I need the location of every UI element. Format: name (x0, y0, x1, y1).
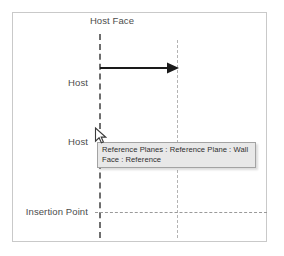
direction-arrow-svg (99, 60, 181, 76)
arrow-pointer-svg (93, 126, 107, 146)
arrow-pointer-icon (93, 126, 107, 146)
tooltip-text: Reference Planes : Reference Plane : Wal… (102, 145, 252, 164)
insertion-point-reference-line[interactable] (95, 212, 267, 213)
page-title: Host Face (72, 15, 152, 26)
label-host-lower: Host (24, 136, 88, 147)
host-face-diagram: Host Face Host Host Insertion Point Refe… (0, 0, 284, 256)
label-host-upper: Host (24, 77, 88, 88)
reference-plane-tooltip: Reference Planes : Reference Plane : Wal… (97, 142, 256, 168)
label-insertion-point: Insertion Point (14, 206, 88, 217)
direction-arrow-icon (99, 60, 181, 76)
